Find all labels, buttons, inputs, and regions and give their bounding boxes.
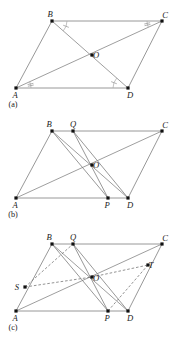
point-label-O: O [93,273,99,283]
angle-arc-A [30,82,31,88]
diagonal-AC [16,131,162,198]
point-label-D: D [126,90,134,100]
vertex-dot-B [50,242,53,245]
panel-caption-b: (b) [8,210,18,219]
vertex-dot-Q [71,129,74,132]
diagonal-AC [16,21,162,88]
segment-BP [52,131,108,198]
point-label-A: A [11,90,18,100]
point-label-A: A [11,313,18,323]
point-label-C: C [162,233,168,243]
segment-QD [73,244,128,311]
side-CD [128,131,162,198]
diagonal-BD [52,244,128,311]
side-CD [128,21,162,88]
point-label-T: T [149,260,155,270]
panel-b: ABQCDPO(b) [8,119,168,219]
vertex-dot-B [50,19,53,22]
panel-caption-c: (c) [8,323,17,332]
point-label-O: O [93,160,99,170]
side-AB [16,244,52,311]
diagonal-BD [52,131,128,198]
segment-QD [73,131,128,198]
vertex-dot-Q [71,242,74,245]
point-label-B: B [46,232,52,242]
point-label-B: B [47,9,53,19]
point-label-P: P [103,313,110,323]
geometry-diagram-canvas: ABCDO(a)ABQCDPO(b)ABQCDPOST(c) [0,0,180,344]
point-label-S: S [15,282,20,292]
vertex-dot-B [50,129,53,132]
panel-caption-a: (a) [8,100,17,109]
dashed-segment-OT [92,265,148,277]
point-label-D: D [126,313,134,323]
dashed-segment-SO [25,277,92,287]
side-AB [16,131,52,198]
point-label-O: O [93,50,99,60]
vertex-dot-S [23,285,26,288]
point-label-A: A [11,200,18,210]
point-label-C: C [162,10,168,20]
point-label-Q: Q [70,232,77,242]
point-label-D: D [126,200,134,210]
point-label-C: C [162,120,168,130]
angle-arc-C [147,21,148,27]
panel-a: ABCDO(a) [8,9,168,109]
geometry-figure-sheet: ABCDO(a)ABQCDPO(b)ABQCDPOST(c) [0,0,180,344]
point-label-B: B [46,119,52,129]
point-label-Q: Q [70,119,77,129]
side-AB [16,21,52,88]
point-label-P: P [103,200,110,210]
side-CD [128,244,162,311]
panel-c: ABQCDPOST(c) [8,232,168,332]
segment-BP [52,244,108,311]
dashed-segment-PT [108,265,148,311]
